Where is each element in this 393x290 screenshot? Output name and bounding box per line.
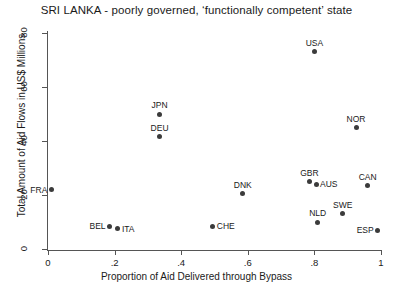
data-point-fra[interactable] xyxy=(49,187,54,192)
x-tick-label: .6 xyxy=(236,257,260,268)
x-tick-label: 0 xyxy=(36,257,60,268)
data-point-label-dnk: DNK xyxy=(234,180,252,189)
plot-area: FRABELITAJPNDEUCHEDNKGBRAUSUSANLDSWENORC… xyxy=(48,33,381,249)
data-point-bel[interactable] xyxy=(107,224,112,229)
data-point-label-aus: AUS xyxy=(320,180,337,189)
data-point-aus[interactable] xyxy=(314,182,319,187)
x-tick-label: .4 xyxy=(169,257,193,268)
data-point-usa[interactable] xyxy=(312,49,317,54)
data-point-che[interactable] xyxy=(210,224,215,229)
y-axis-title: Total Amount of Aid Flows in US$ Million… xyxy=(16,1,27,251)
data-point-label-nld: NLD xyxy=(309,209,326,218)
x-tick-mark xyxy=(48,250,49,255)
data-point-nld[interactable] xyxy=(315,220,320,225)
data-point-label-esp: ESP xyxy=(357,226,374,235)
x-tick-label: 1 xyxy=(369,257,393,268)
data-point-label-gbr: GBR xyxy=(300,168,318,177)
chart-title: SRI LANKA - poorly governed, ‘functional… xyxy=(0,4,393,16)
y-tick-mark xyxy=(42,33,47,34)
x-tick-mark xyxy=(314,250,315,255)
x-tick-mark xyxy=(381,250,382,255)
data-point-label-bel: BEL xyxy=(90,222,106,231)
data-point-nor[interactable] xyxy=(354,125,359,130)
x-tick-label: .2 xyxy=(103,257,127,268)
data-point-ita[interactable] xyxy=(115,226,120,231)
data-point-gbr[interactable] xyxy=(307,179,312,184)
data-point-label-jpn: JPN xyxy=(152,101,168,110)
data-point-swe[interactable] xyxy=(340,211,345,216)
y-tick-mark xyxy=(42,249,47,250)
data-point-label-che: CHE xyxy=(217,222,235,231)
data-point-label-deu: DEU xyxy=(151,123,169,132)
data-point-label-can: CAN xyxy=(359,172,377,181)
scatter-plot-figure: SRI LANKA - poorly governed, ‘functional… xyxy=(0,0,393,290)
data-point-can[interactable] xyxy=(365,183,370,188)
x-tick-mark xyxy=(115,250,116,255)
y-tick-mark xyxy=(42,195,47,196)
data-point-label-ita: ITA xyxy=(122,225,135,234)
data-point-esp[interactable] xyxy=(375,228,380,233)
x-tick-label: .8 xyxy=(302,257,326,268)
data-point-deu[interactable] xyxy=(157,134,162,139)
x-tick-mark xyxy=(181,250,182,255)
data-point-jpn[interactable] xyxy=(157,112,162,117)
y-tick-mark xyxy=(42,141,47,142)
x-axis-title: Proportion of Aid Delivered through Bypa… xyxy=(0,271,393,282)
x-tick-mark xyxy=(248,250,249,255)
data-point-dnk[interactable] xyxy=(240,191,245,196)
data-point-label-fra: FRA xyxy=(30,185,47,194)
x-axis-line xyxy=(47,250,382,251)
data-point-label-nor: NOR xyxy=(347,114,366,123)
y-tick-mark xyxy=(42,87,47,88)
data-point-label-swe: SWE xyxy=(333,200,352,209)
data-point-label-usa: USA xyxy=(306,38,323,47)
